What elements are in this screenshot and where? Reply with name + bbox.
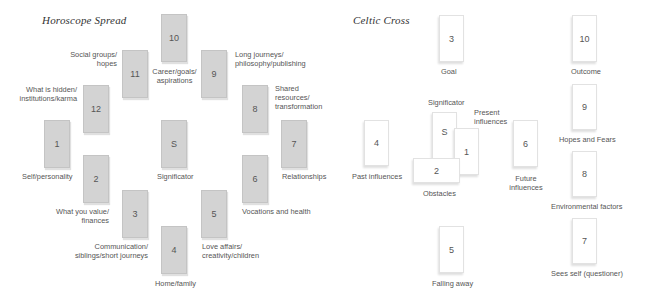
card-number: 4 (171, 245, 176, 255)
horoscope-label-7: Relationships (282, 172, 326, 181)
horoscope-label-2: What you value/ finances (56, 207, 109, 225)
horoscope-label-9: Long journeys/ philosophy/publishing (235, 50, 306, 68)
card-number: 3 (132, 209, 137, 219)
celtic-card-9: 9 (572, 84, 597, 130)
celtic-card-5: 5 (439, 226, 464, 273)
card-number: 11 (130, 69, 139, 79)
celtic-label-10: Outcome (571, 67, 601, 76)
horoscope-label-5: Love affairs/ creativity/children (202, 242, 259, 260)
celtic-label-significator: Significator (428, 98, 465, 107)
horoscope-card-4: 4 (161, 226, 187, 274)
card-number: 5 (449, 245, 454, 255)
horoscope-spread-title: Horoscope Spread (42, 14, 127, 26)
horoscope-card-1: 1 (44, 120, 70, 168)
label-line: Love affairs/ (202, 242, 259, 251)
label-line: Present (474, 108, 507, 117)
celtic-label-1: Present influences (474, 108, 507, 126)
celtic-card-2: 2 (413, 158, 460, 183)
label-line: siblings/short journeys (75, 251, 148, 260)
horoscope-card-11: 11 (122, 50, 148, 98)
card-number: 6 (523, 139, 528, 149)
horoscope-label-12: What is hidden/ institutions/karma (19, 85, 77, 103)
celtic-card-3: 3 (439, 15, 464, 62)
card-number: S (171, 139, 177, 149)
card-number: 12 (91, 104, 101, 114)
label-line: aspirations (152, 76, 197, 85)
card-number: S (441, 127, 447, 137)
label-line: Career/goals/ (152, 67, 197, 76)
card-number: 9 (211, 69, 216, 79)
horoscope-label-6: Vocations and health (242, 207, 311, 216)
horoscope-card-2: 2 (83, 155, 109, 203)
card-number: 5 (211, 209, 216, 219)
label-line: transformation (275, 102, 322, 111)
celtic-label-5: Falling away (432, 279, 473, 288)
celtic-card-8: 8 (572, 151, 597, 197)
horoscope-card-3: 3 (122, 190, 148, 238)
horoscope-card-10: 10 (161, 14, 187, 62)
card-number: 7 (582, 236, 587, 246)
celtic-card-7: 7 (572, 218, 597, 264)
card-number: 3 (449, 34, 454, 44)
label-line: Social groups/ (70, 50, 117, 59)
celtic-label-8: Environmental factors (551, 202, 622, 211)
card-number: 2 (434, 166, 439, 176)
celtic-card-10: 10 (572, 15, 597, 62)
label-line: hopes (70, 59, 117, 68)
card-number: 10 (169, 33, 179, 43)
horoscope-card-7: 7 (281, 120, 307, 168)
label-line: influences (474, 117, 507, 126)
card-number: 1 (464, 147, 469, 157)
card-number: 4 (374, 138, 379, 148)
celtic-label-3: Goal (441, 67, 457, 76)
celtic-card-6: 6 (513, 120, 538, 167)
horoscope-card-5: 5 (201, 190, 227, 238)
horoscope-card-12: 12 (83, 85, 109, 133)
horoscope-label-11: Social groups/ hopes (70, 50, 117, 68)
card-number: 8 (582, 169, 587, 179)
label-line: creativity/children (202, 251, 259, 260)
celtic-label-2: Obstacles (423, 189, 456, 198)
horoscope-label-8: Shared resources/ transformation (275, 84, 322, 112)
label-line: resources/ (275, 93, 322, 102)
horoscope-label-4: Home/family (155, 279, 196, 288)
label-line: finances (56, 216, 109, 225)
card-number: 8 (252, 104, 257, 114)
card-number: 10 (579, 34, 589, 44)
celtic-label-6: Future influences (505, 174, 547, 192)
card-number: 2 (93, 174, 98, 184)
celtic-cross-title: Celtic Cross (353, 14, 410, 26)
horoscope-card-6: 6 (242, 155, 268, 203)
card-number: 1 (54, 139, 59, 149)
label-line: What is hidden/ (19, 85, 77, 94)
label-line: What you value/ (56, 207, 109, 216)
horoscope-label-significator: Significator (157, 172, 194, 181)
card-number: 6 (252, 174, 257, 184)
celtic-label-4: Past influences (352, 172, 402, 181)
celtic-label-7: Sees self (questioner) (551, 269, 623, 278)
horoscope-label-1: Self/personality (22, 172, 73, 181)
label-line: philosophy/publishing (235, 59, 306, 68)
label-line: Communication/ (75, 242, 148, 251)
horoscope-card-9: 9 (201, 50, 227, 98)
label-line: Shared (275, 84, 322, 93)
celtic-card-4: 4 (364, 120, 389, 166)
card-number: 7 (291, 139, 296, 149)
horoscope-label-3: Communication/ siblings/short journeys (75, 242, 148, 260)
horoscope-card-8: 8 (242, 85, 268, 133)
horoscope-card-significator: S (161, 120, 187, 168)
label-line: influences (505, 183, 547, 192)
label-line: Long journeys/ (235, 50, 306, 59)
label-line: Future (505, 174, 547, 183)
horoscope-label-10: Career/goals/ aspirations (152, 67, 197, 85)
card-number: 9 (582, 102, 587, 112)
celtic-label-9: Hopes and Fears (559, 135, 616, 144)
label-line: institutions/karma (19, 94, 77, 103)
